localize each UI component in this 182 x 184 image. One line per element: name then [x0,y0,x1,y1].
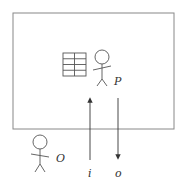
room-box [13,13,174,129]
person-inside-icon [93,50,111,86]
rulebook-grid-icon [63,53,86,76]
person-outside-label: O [56,152,65,165]
person-outside-icon [31,135,49,172]
diagram-canvas: P O i o [0,0,182,184]
person-inside-label: P [113,75,122,88]
output-arrow-label: o [115,167,122,180]
input-arrow-label: i [88,167,92,180]
